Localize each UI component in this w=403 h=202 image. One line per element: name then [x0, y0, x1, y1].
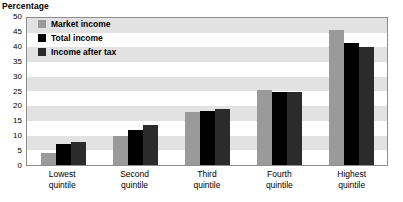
y-axis-tick-label: 25 [13, 88, 22, 96]
bar[interactable] [128, 130, 143, 165]
x-axis-tick-label-line: quintile [243, 180, 315, 191]
x-axis-tick-label-line: Fourth [243, 169, 315, 180]
y-axis-tick-label: 30 [13, 73, 22, 81]
legend-swatch-icon [38, 48, 46, 56]
x-axis-tick-label-line: quintile [26, 180, 98, 191]
x-axis-tick-label-line: Lowest [26, 169, 98, 180]
y-axis-tick-label: 45 [13, 28, 22, 36]
y-axis-tick-label: 15 [13, 117, 22, 125]
legend-item-label: Income after tax [51, 47, 116, 57]
legend-item-label: Total income [51, 33, 103, 43]
bar[interactable] [272, 92, 287, 165]
legend-item[interactable]: Market income [38, 19, 116, 29]
bar[interactable] [287, 92, 302, 165]
x-axis-tick-label-line: Second [99, 169, 171, 180]
legend-swatch-icon [38, 34, 46, 42]
chart-figure: 50454035302520151050 LowestquintileSecon… [0, 14, 403, 202]
legend-item-label: Market income [51, 19, 111, 29]
y-axis-tick-label: 20 [13, 102, 22, 110]
legend-item[interactable]: Income after tax [38, 47, 116, 57]
x-axis-tick-label-line: quintile [316, 180, 388, 191]
bar-group [185, 18, 230, 165]
bar[interactable] [200, 111, 215, 165]
bar[interactable] [185, 112, 200, 165]
x-axis-tick-label-line: Highest [316, 169, 388, 180]
x-axis-tick-label: Highestquintile [316, 169, 388, 201]
chart-title: Percentage [2, 1, 49, 12]
x-axis: LowestquintileSecondquintileThirdquintil… [26, 169, 388, 201]
x-axis-tick-label-line: quintile [171, 180, 243, 191]
y-axis-tick-label: 40 [13, 43, 22, 51]
x-axis-tick-label: Lowestquintile [26, 169, 98, 201]
bar[interactable] [359, 47, 374, 165]
bar[interactable] [215, 109, 230, 165]
legend-item[interactable]: Total income [38, 33, 116, 43]
y-axis-tick-label: 10 [13, 132, 22, 140]
y-axis: 50454035302520151050 [0, 14, 24, 166]
bar[interactable] [41, 153, 56, 165]
x-axis-tick-label: Thirdquintile [171, 169, 243, 201]
y-axis-tick-label: 0 [18, 162, 22, 170]
x-axis-tick-label: Fourthquintile [243, 169, 315, 201]
y-axis-tick-label: 50 [13, 13, 22, 21]
chart-legend: Market incomeTotal incomeIncome after ta… [38, 19, 116, 57]
bar[interactable] [143, 125, 158, 165]
bar-group [257, 18, 302, 165]
bar[interactable] [113, 136, 128, 165]
bar[interactable] [56, 144, 71, 165]
x-axis-tick-label-line: Third [171, 169, 243, 180]
bar[interactable] [257, 90, 272, 165]
x-axis-tick-label-line: quintile [99, 180, 171, 191]
bar[interactable] [344, 43, 359, 165]
legend-swatch-icon [38, 20, 46, 28]
bar[interactable] [329, 30, 344, 165]
y-axis-tick-label: 5 [18, 147, 22, 155]
bar-group [329, 18, 374, 165]
y-axis-tick-label: 35 [13, 58, 22, 66]
x-axis-tick-label: Secondquintile [99, 169, 171, 201]
bar-group [113, 18, 158, 165]
bar[interactable] [71, 142, 86, 165]
